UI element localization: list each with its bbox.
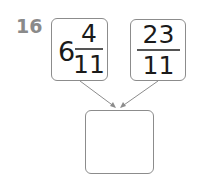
answer-box[interactable] (85, 110, 154, 174)
numerator: 4 (81, 20, 97, 47)
arrowhead-icon (120, 102, 126, 108)
numerator: 23 (143, 21, 175, 48)
fraction: 23 11 (137, 21, 180, 79)
denominator: 11 (143, 52, 175, 79)
fraction: 4 11 (75, 20, 103, 78)
mixed-number-box: 6 4 11 (51, 18, 108, 81)
arrowhead-icon (110, 102, 116, 108)
improper-fraction-box: 23 11 (130, 19, 186, 81)
denominator: 11 (73, 51, 105, 78)
